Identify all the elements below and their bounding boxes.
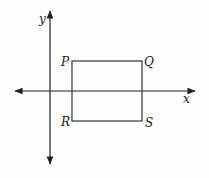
- x-axis-label: x: [183, 92, 190, 106]
- vertex-label-q: Q: [144, 55, 154, 69]
- vertex-label-r: R: [60, 115, 70, 129]
- vertex-label-s: S: [145, 116, 153, 130]
- coordinate-diagram: y x P Q R S: [0, 0, 209, 178]
- y-axis-label: y: [38, 12, 46, 26]
- vertex-label-p: P: [60, 55, 70, 69]
